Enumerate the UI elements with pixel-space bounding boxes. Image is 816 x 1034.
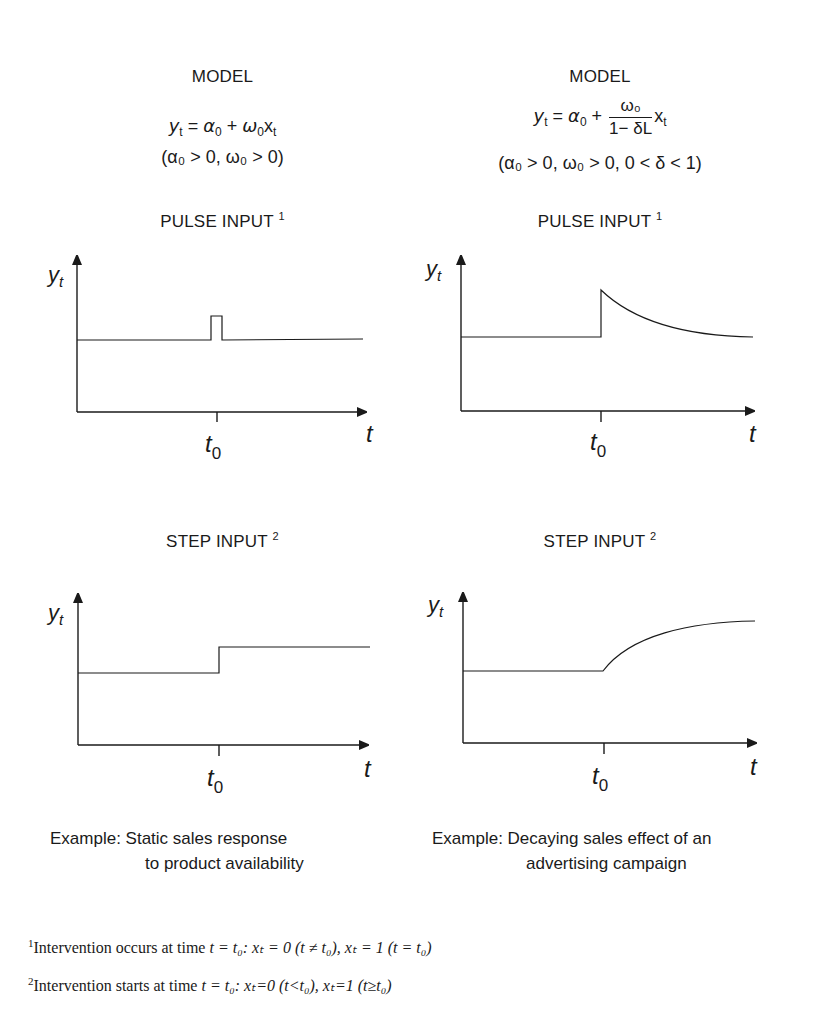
x-axis-label: t	[364, 755, 371, 783]
chart-step-static	[78, 594, 370, 756]
right-example-line1: Example: Decaying sales effect of an	[432, 827, 711, 850]
t0-tick-label: t0	[590, 428, 606, 462]
x-axis-label: t	[749, 420, 756, 448]
t0-tick-label: t0	[205, 430, 221, 464]
x-axis-label: t	[366, 420, 373, 448]
chart-step-decay	[463, 593, 756, 754]
y-axis-label: yt	[48, 262, 63, 290]
x-axis-label: t	[750, 753, 757, 781]
t0-tick-label: t0	[207, 764, 223, 798]
chart-pulse-static	[77, 256, 366, 422]
y-axis-label: yt	[428, 592, 443, 620]
footnote-1: 1Intervention occurs at time t = t₀: xₜ …	[28, 937, 432, 957]
footnote-2: 2Intervention starts at time t = t₀: xₜ=…	[28, 975, 392, 995]
t0-tick-label: t0	[592, 762, 608, 796]
left-example-line1: Example: Static sales response	[50, 827, 287, 850]
left-example-line2: to product availability	[145, 852, 304, 875]
y-axis-label: yt	[426, 256, 441, 284]
right-example-line2: advertising campaign	[526, 852, 687, 875]
y-axis-label: yt	[48, 600, 63, 628]
intervention-charts	[0, 0, 816, 1034]
chart-pulse-decay	[461, 256, 754, 422]
